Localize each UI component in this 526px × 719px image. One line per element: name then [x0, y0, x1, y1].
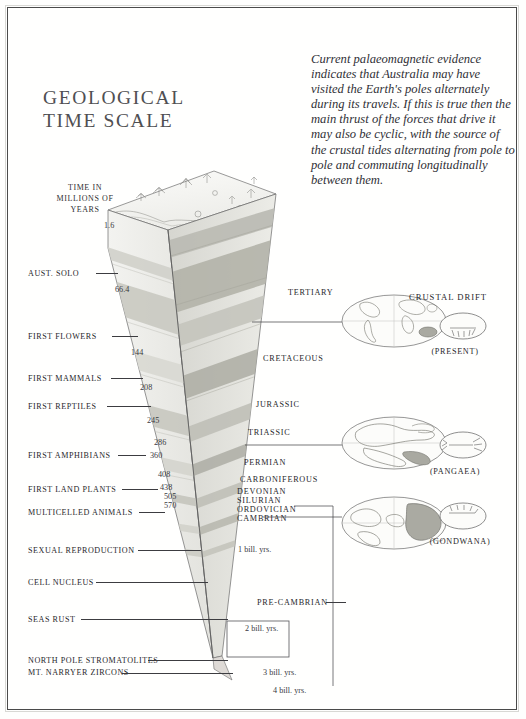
period-label-carboniferous: CARBONIFEROUS: [240, 475, 318, 484]
scale-number-144: 144: [131, 348, 143, 357]
billion-marker-1: 1 bill. yrs.: [238, 545, 271, 554]
event-label-first-mammals: FIRST MAMMALS: [28, 374, 102, 383]
period-label-jurassic: JURASSIC: [256, 400, 300, 409]
drift-stage-label-gondwana: (GONDWANA): [430, 537, 491, 546]
leader-first-reptiles: [107, 406, 151, 407]
drift-stage-label-pangaea: (PANGAEA): [430, 467, 480, 476]
scale-number-570: 570: [164, 501, 176, 510]
polar-gondwana: [440, 503, 486, 529]
drift-stage-label-present: (PRESENT): [431, 347, 478, 356]
event-label-multicelled-animals: MULTICELLED ANIMALS: [28, 508, 133, 517]
scale-number-66-4: 66.4: [115, 285, 129, 294]
scale-number-1-6: 1.6: [104, 221, 114, 230]
crustal-drift-heading: CRUSTAL DRIFT: [409, 292, 487, 302]
leader-aust-solo: [96, 273, 118, 274]
leader-first-flowers: [112, 336, 138, 337]
polar-present: [440, 313, 486, 339]
scale-number-245: 245: [147, 416, 159, 425]
billion-marker-2: 2 bill. yrs.: [245, 624, 278, 633]
billion-marker-4: 4 bill. yrs.: [273, 686, 306, 695]
event-label-sexual-reproduction: SEXUAL REPRODUCTION: [28, 546, 135, 555]
period-label-triassic: TRIASSIC: [248, 428, 290, 437]
polar-pangaea: [440, 432, 486, 458]
leader-first-land-plants: [122, 489, 158, 490]
period-label-permian: PERMIAN: [244, 458, 286, 467]
event-label-cell-nucleus: CELL NUCLEUS: [28, 578, 94, 587]
page-frame: GEOLOGICAL TIME SCALE Current palaeomagn…: [7, 7, 517, 710]
leader-multicelled-animals: [139, 512, 165, 513]
period-label-cambrian: CAMBRIAN: [237, 514, 287, 523]
leader-cell-nucleus: [96, 582, 208, 583]
leader-north-pole-stromatolites: [148, 660, 228, 661]
event-label-first-flowers: FIRST FLOWERS: [28, 332, 97, 341]
globe-pangaea: [342, 417, 446, 469]
event-label-first-reptiles: FIRST REPTILES: [28, 402, 97, 411]
event-label-first-amphibians: FIRST AMPHIBIANS: [28, 451, 111, 460]
event-label-north-pole-stromatolites: NORTH POLE STROMATOLITES: [28, 656, 158, 665]
globe-present: [342, 295, 446, 347]
scale-number-360: 360: [150, 451, 162, 460]
leader-mt-narryer-zircons: [122, 673, 233, 674]
geological-time-scale-poster: GEOLOGICAL TIME SCALE Current palaeomagn…: [0, 0, 526, 719]
period-label-tertiary: TERTIARY: [288, 288, 334, 297]
leader-seas-rust: [81, 619, 228, 620]
leader-pre-cambrian: [326, 602, 346, 603]
scale-number-408: 408: [158, 470, 170, 479]
leader-first-amphibians: [118, 455, 146, 456]
leader-sexual-reproduction: [138, 550, 201, 551]
event-label-first-land-plants: FIRST LAND PLANTS: [28, 485, 116, 494]
scale-number-286: 286: [154, 438, 166, 447]
scale-number-208: 208: [140, 383, 152, 392]
period-label-cretaceous: CRETACEOUS: [263, 354, 324, 363]
period-label-devonian: DEVONIAN: [237, 487, 286, 496]
scale-number-505: 505: [164, 492, 176, 501]
event-label-aust-solo: AUST. SOLO: [28, 269, 79, 278]
event-label-seas-rust: SEAS RUST: [28, 615, 75, 624]
scale-number-438: 438: [160, 483, 172, 492]
event-label-mt-narryer-zircons: MT. NARRYER ZIRCONS: [28, 668, 129, 677]
period-label-ordovician: ORDOVICIAN: [237, 505, 296, 514]
period-label-pre-cambrian: PRE-CAMBRIAN: [257, 598, 328, 607]
leader-first-mammals: [111, 378, 143, 379]
period-label-silurian: SILURIAN: [237, 496, 281, 505]
billion-marker-3: 3 bill. yrs.: [263, 668, 296, 677]
